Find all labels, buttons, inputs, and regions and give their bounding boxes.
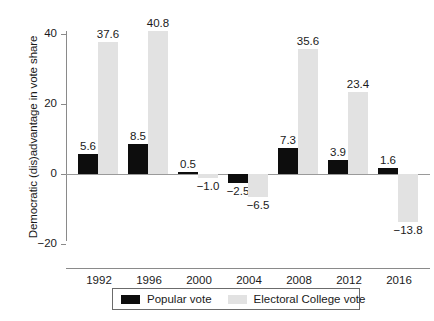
legend-item-popular-vote: Popular vote xyxy=(121,293,212,305)
bar-group: 1.6−13.8 xyxy=(374,20,424,268)
bar-electoral-2004[interactable] xyxy=(248,174,268,197)
bar-group: 8.540.8 xyxy=(124,20,174,268)
bar-group: 3.923.4 xyxy=(324,20,374,268)
y-tick-label: 40 xyxy=(17,28,57,39)
x-axis-line xyxy=(66,268,430,269)
bar-electoral-2008[interactable] xyxy=(298,49,318,174)
bar-popular-2012[interactable] xyxy=(328,160,348,174)
bar-popular-2008[interactable] xyxy=(278,148,298,174)
legend-label-electoral-college-vote: Electoral College vote xyxy=(254,293,366,305)
chart-legend: Popular vote Electoral College vote xyxy=(112,288,360,310)
bar-popular-1992[interactable] xyxy=(78,154,98,174)
bar-electoral-1992[interactable] xyxy=(98,42,118,174)
chart-container: Democratic (dis)advantage in vote share … xyxy=(0,0,434,321)
bar-group: 0.5−1.0 xyxy=(174,20,224,268)
y-tick-label: 0 xyxy=(17,168,57,179)
bar-group: 5.637.6 xyxy=(74,20,124,268)
y-axis-label: Democratic (dis)advantage in vote share xyxy=(22,2,44,272)
y-tick-label: 20 xyxy=(17,98,57,109)
bar-popular-2000[interactable] xyxy=(178,172,198,174)
x-tick-label-2016: 2016 xyxy=(369,274,429,287)
bar-electoral-2012[interactable] xyxy=(348,92,368,174)
bar-popular-2016[interactable] xyxy=(378,168,398,174)
bar-electoral-2000[interactable] xyxy=(198,174,218,178)
bar-value-label: 1.6 xyxy=(366,154,410,166)
bar-electoral-2016[interactable] xyxy=(398,174,418,222)
y-tick-label: −20 xyxy=(17,238,57,249)
bar-popular-2004[interactable] xyxy=(228,174,248,183)
legend-label-popular-vote: Popular vote xyxy=(147,293,212,305)
legend-swatch-popular-vote xyxy=(121,295,140,304)
plot-area: 5.637.68.540.80.5−1.0−2.5−6.57.335.63.92… xyxy=(66,20,430,268)
bar-popular-1996[interactable] xyxy=(128,144,148,174)
bar-value-label: −13.8 xyxy=(386,224,430,236)
legend-item-electoral-college-vote: Electoral College vote xyxy=(228,293,366,305)
bar-group: 7.335.6 xyxy=(274,20,324,268)
legend-swatch-electoral-college-vote xyxy=(228,295,247,304)
bar-value-label: 0.5 xyxy=(166,158,210,170)
bar-electoral-1996[interactable] xyxy=(148,31,168,174)
